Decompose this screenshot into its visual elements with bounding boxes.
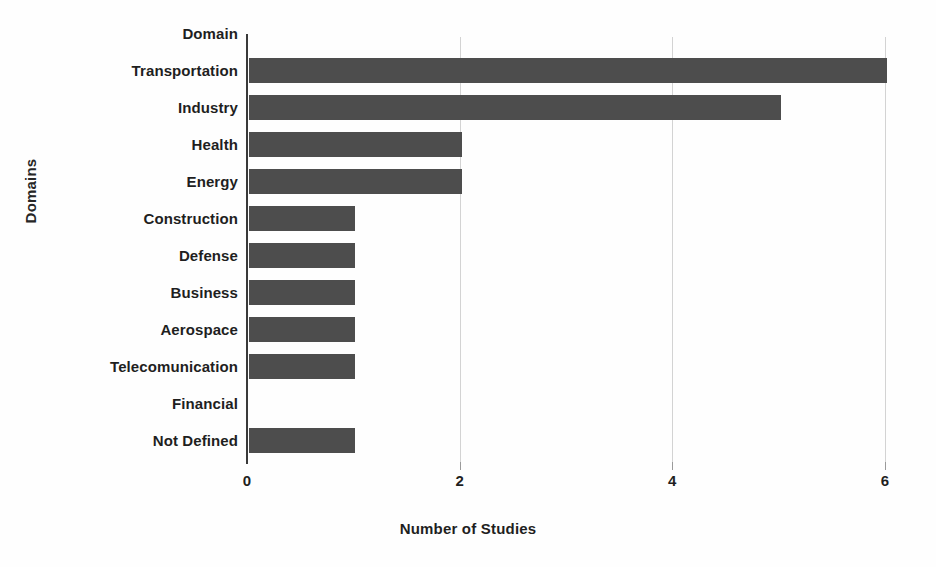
bar-row: Aerospace bbox=[0, 312, 936, 347]
bar[interactable] bbox=[249, 132, 462, 157]
category-label: Financial bbox=[0, 386, 238, 421]
bar-row: Industry bbox=[0, 90, 936, 125]
category-label: Transportation bbox=[0, 53, 238, 88]
bar[interactable] bbox=[249, 354, 355, 379]
category-label: Energy bbox=[0, 164, 238, 199]
x-tick-mark bbox=[460, 462, 461, 470]
bar[interactable] bbox=[249, 206, 355, 231]
category-label: Domain bbox=[0, 16, 238, 51]
x-tick-label: 6 bbox=[865, 472, 905, 489]
bar-row: Transportation bbox=[0, 53, 936, 88]
bar-row: Construction bbox=[0, 201, 936, 236]
x-tick-label: 2 bbox=[440, 472, 480, 489]
bar-row: Energy bbox=[0, 164, 936, 199]
category-label: Industry bbox=[0, 90, 238, 125]
bar[interactable] bbox=[249, 428, 355, 453]
bar-row: Domain bbox=[0, 16, 936, 51]
bar[interactable] bbox=[249, 243, 355, 268]
x-tick-label: 4 bbox=[652, 472, 692, 489]
bar[interactable] bbox=[249, 280, 355, 305]
bar[interactable] bbox=[249, 95, 781, 120]
x-axis-title: Number of Studies bbox=[0, 520, 936, 537]
bar-row: Not Defined bbox=[0, 423, 936, 458]
category-label: Defense bbox=[0, 238, 238, 273]
bar-row: Business bbox=[0, 275, 936, 310]
x-tick-mark bbox=[885, 462, 886, 470]
category-label: Telecomunication bbox=[0, 349, 238, 384]
category-label: Business bbox=[0, 275, 238, 310]
category-label: Aerospace bbox=[0, 312, 238, 347]
bar-chart-figure: Domains DomainTransportationIndustryHeal… bbox=[0, 0, 936, 567]
bar[interactable] bbox=[249, 317, 355, 342]
x-tick-label: 0 bbox=[227, 472, 267, 489]
category-label: Health bbox=[0, 127, 238, 162]
bar-row: Defense bbox=[0, 238, 936, 273]
bar-row: Telecomunication bbox=[0, 349, 936, 384]
bar[interactable] bbox=[249, 169, 462, 194]
x-tick-mark bbox=[672, 462, 673, 470]
category-label: Construction bbox=[0, 201, 238, 236]
category-label: Not Defined bbox=[0, 423, 238, 458]
bar-row: Health bbox=[0, 127, 936, 162]
bar[interactable] bbox=[249, 58, 887, 83]
bar-row: Financial bbox=[0, 386, 936, 421]
